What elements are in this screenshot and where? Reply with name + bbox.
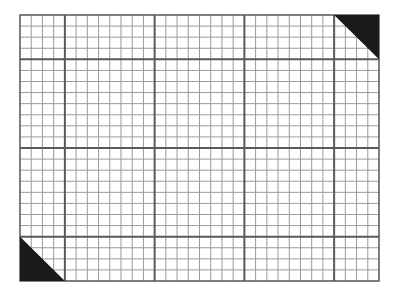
grid-figure [0,0,399,298]
